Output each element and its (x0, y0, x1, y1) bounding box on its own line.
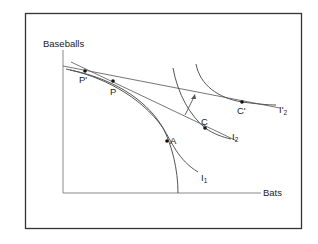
y-axis-label: Baseballs (43, 38, 84, 49)
label-i2-sub: 2 (235, 136, 239, 143)
label-c-prime: C' (237, 105, 246, 116)
label-c: C (201, 116, 208, 127)
x-axis-label: Bats (263, 187, 282, 198)
label-a: A (170, 135, 177, 146)
indifference-curve-diagram: Baseballs Bats P' P A C C' I1 I2 I'2 (0, 0, 318, 244)
point-p (111, 79, 115, 83)
label-p: P (110, 86, 116, 97)
point-p-prime (83, 69, 87, 73)
point-a (165, 139, 169, 143)
label-p-prime: P' (79, 74, 87, 85)
label-i2-prime-sub: 2 (283, 109, 287, 116)
point-c-prime (240, 100, 244, 104)
label-i1-sub: 1 (204, 177, 208, 184)
